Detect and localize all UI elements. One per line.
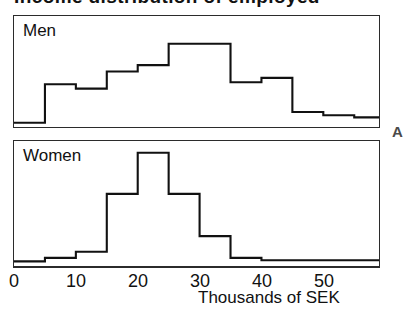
panel-men: Men: [13, 15, 380, 128]
figure-title: Income distribution of employed: [14, 0, 320, 8]
x-tick-10: 10: [66, 270, 86, 292]
histogram-men-outline: [14, 44, 379, 123]
x-axis-title: Thousands of SEK: [198, 288, 340, 308]
x-axis-line: [13, 266, 380, 268]
x-tick-0: 0: [9, 270, 19, 292]
histogram-men: [14, 16, 379, 127]
figure-root: Income distribution of employed Men Wome…: [0, 0, 416, 310]
histogram-women-outline: [14, 153, 379, 262]
panel-letter-a: A: [392, 123, 403, 140]
histogram-women: [14, 141, 379, 266]
x-axis: [13, 266, 380, 269]
figure-title-strip: Income distribution of employed: [0, 0, 416, 13]
panel-women: Women: [13, 140, 380, 267]
x-tick-20: 20: [128, 270, 148, 292]
